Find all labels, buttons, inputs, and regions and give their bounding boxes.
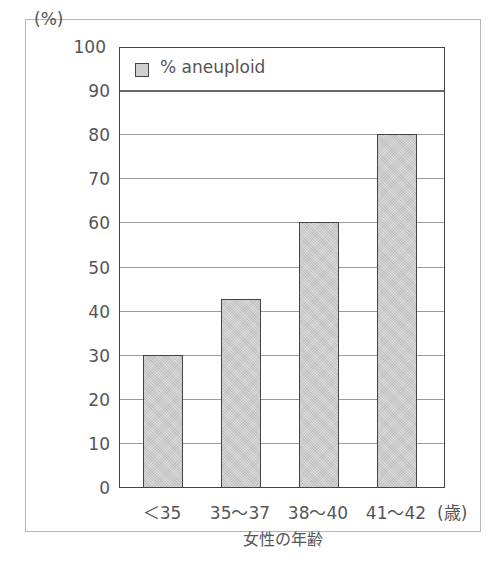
y-tick-label: 80 (70, 125, 110, 145)
x-tick-label: 41〜42 (356, 499, 436, 524)
legend: % aneuploid (120, 48, 444, 92)
bar (143, 355, 183, 487)
x-axis-unit: (歳) (437, 499, 467, 524)
x-tick-label: ＜35 (122, 499, 202, 524)
y-tick-label: 60 (70, 213, 110, 233)
legend-label: % aneuploid (160, 57, 265, 77)
y-tick-label: 100 (66, 37, 106, 57)
plot-area: % aneuploid (119, 47, 445, 488)
y-tick-label: 90 (70, 81, 110, 101)
x-tick-label: 35〜37 (200, 499, 280, 524)
y-tick-label: 70 (70, 169, 110, 189)
y-axis-unit: (%) (34, 9, 63, 29)
bar (221, 299, 261, 487)
x-tick-label: 38〜40 (278, 499, 358, 524)
y-tick-label: 0 (70, 478, 110, 498)
bar (377, 134, 417, 487)
y-tick-label: 40 (70, 302, 110, 322)
y-tick-label: 20 (70, 390, 110, 410)
bar (299, 222, 339, 487)
x-axis-title: 女性の年齢 (0, 526, 496, 550)
y-tick-label: 10 (70, 434, 110, 454)
y-tick-label: 50 (70, 258, 110, 278)
y-tick-label: 30 (70, 346, 110, 366)
legend-swatch-icon (135, 63, 149, 77)
